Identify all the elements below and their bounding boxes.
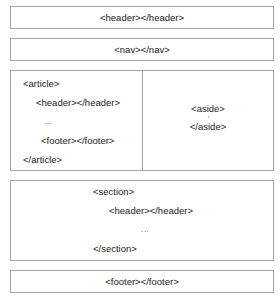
aside-ellipsis-mark	[208, 116, 209, 118]
section-close-tag: </section>	[93, 243, 137, 254]
section-block: <section> <header></header> ... </sectio…	[10, 180, 274, 261]
article-aside-block: <article> <header></header> ... <footer>…	[10, 70, 274, 171]
article-header-tag: <header></header>	[36, 97, 120, 108]
footer-label: <footer></footer>	[105, 276, 178, 287]
article-footer-tag: <footer></footer>	[41, 135, 114, 146]
footer-block: <footer></footer>	[10, 270, 274, 293]
nav-label: <nav></nav>	[114, 44, 169, 55]
article-open-tag: <article>	[23, 78, 59, 89]
aside-block: <aside> </aside>	[143, 103, 273, 132]
nav-block: <nav></nav>	[10, 38, 274, 61]
article-close-tag: </article>	[23, 154, 62, 165]
header-label: <header></header>	[100, 12, 184, 23]
aside-open-tag: <aside>	[191, 103, 225, 114]
aside-close-tag: </aside>	[190, 121, 226, 132]
article-ellipsis: ...	[44, 115, 52, 126]
header-block: <header></header>	[10, 6, 274, 29]
section-header-tag: <header></header>	[109, 205, 193, 216]
section-open-tag: <section>	[93, 186, 134, 197]
section-ellipsis: ...	[141, 223, 149, 234]
